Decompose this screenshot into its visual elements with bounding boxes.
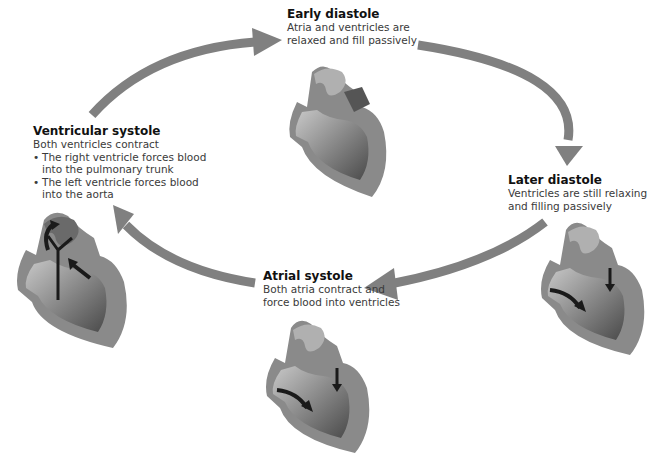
arrow-to-later-diastole bbox=[418, 45, 569, 140]
stage-atrial-systole: Atrial systole Both atria contract and f… bbox=[263, 269, 400, 308]
stage-title: Atrial systole bbox=[263, 269, 400, 283]
stage-desc: force blood into ventricles bbox=[263, 296, 400, 309]
stage-title: Ventricular systole bbox=[33, 124, 206, 138]
stage-title: Later diastole bbox=[508, 173, 647, 187]
heart-early-diastole bbox=[282, 62, 392, 202]
bullet-item: The left ventricle forces blood into the… bbox=[33, 176, 206, 201]
stage-desc: and filling passively bbox=[508, 200, 647, 213]
stage-desc: relaxed and fill passively bbox=[287, 34, 417, 47]
stage-title: Early diastole bbox=[287, 7, 417, 21]
heart-atrial-systole bbox=[255, 318, 375, 458]
arrow-to-early-diastole bbox=[92, 28, 282, 115]
stage-desc: Both ventricles contract bbox=[33, 138, 206, 151]
heart-ventricular-systole bbox=[8, 210, 133, 350]
stage-desc: Ventricles are still relaxing bbox=[508, 187, 647, 200]
heart-later-diastole bbox=[530, 220, 650, 360]
bullet-item: The right ventricle forces blood into th… bbox=[33, 151, 206, 176]
cardiac-cycle-diagram: Early diastole Atria and ventricles are … bbox=[0, 0, 654, 459]
bullet-list: The right ventricle forces blood into th… bbox=[33, 151, 206, 201]
arrow-head-later-diastole bbox=[555, 146, 583, 166]
arrow-to-ventricular-systole bbox=[113, 205, 255, 283]
stage-desc: Atria and ventricles are bbox=[287, 21, 417, 34]
stage-ventricular-systole: Ventricular systole Both ventricles cont… bbox=[33, 124, 206, 201]
stage-desc: Both atria contract and bbox=[263, 283, 400, 296]
stage-later-diastole: Later diastole Ventricles are still rela… bbox=[508, 173, 647, 212]
stage-early-diastole: Early diastole Atria and ventricles are … bbox=[287, 7, 417, 46]
